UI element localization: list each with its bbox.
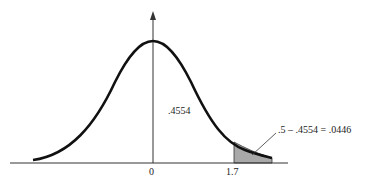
normal-curve-diagram xyxy=(0,0,366,185)
tick-label-z: 1.7 xyxy=(226,166,239,177)
y-axis-arrow-icon xyxy=(150,11,156,20)
tail-area-label: .5 – .4554 = .0446 xyxy=(278,124,351,135)
leader-line xyxy=(252,133,276,155)
center-area-label: .4554 xyxy=(168,105,191,116)
tick-label-zero: 0 xyxy=(149,166,154,177)
